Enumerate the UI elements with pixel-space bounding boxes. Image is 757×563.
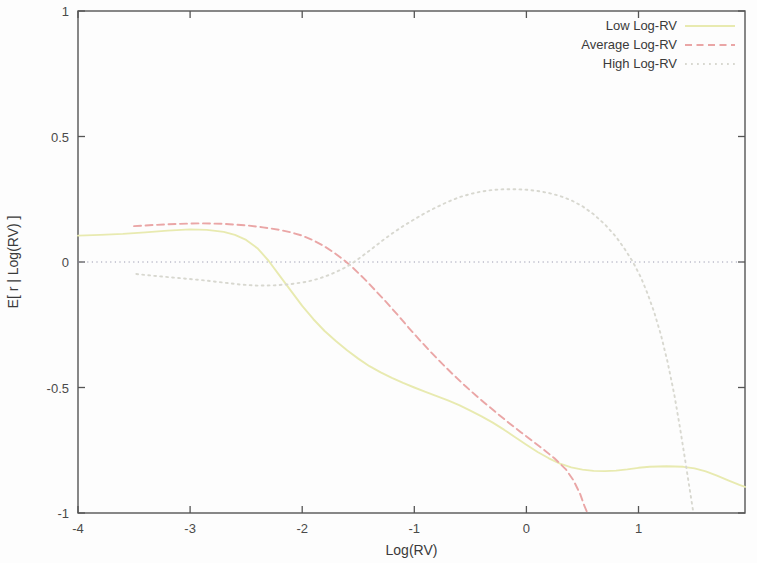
y-tick-label: -1: [57, 506, 69, 521]
x-tick-label: -2: [296, 521, 308, 536]
axis-titles: Log(RV)E[ r | Log(RV) ]: [5, 216, 437, 558]
series-line-2: [136, 189, 693, 513]
y-tick-label: 0: [62, 255, 69, 270]
tick-labels: -4-3-2-10110.50-0.5-1: [47, 4, 643, 536]
x-tick-label: 1: [635, 521, 642, 536]
series-line-0: [78, 229, 745, 487]
x-tick-label: -4: [72, 521, 84, 536]
series-line-1: [134, 223, 587, 513]
legend-label-1: Average Log-RV: [581, 37, 677, 52]
y-axis-title: E[ r | Log(RV) ]: [5, 216, 21, 309]
line-chart: -4-3-2-10110.50-0.5-1 Log(RV)E[ r | Log(…: [0, 0, 757, 563]
y-tick-label: 1: [62, 4, 69, 19]
y-tick-label: -0.5: [47, 381, 69, 396]
legend-label-2: High Log-RV: [603, 56, 678, 71]
data-series-group: [78, 189, 745, 513]
x-tick-label: 0: [523, 521, 530, 536]
x-axis-title: Log(RV): [386, 542, 438, 558]
y-tick-label: 0.5: [51, 130, 69, 145]
chart-figure: -4-3-2-10110.50-0.5-1 Log(RV)E[ r | Log(…: [0, 0, 757, 563]
x-tick-label: -1: [409, 521, 421, 536]
legend-label-0: Low Log-RV: [606, 18, 678, 33]
chart-legend: Low Log-RVAverage Log-RVHigh Log-RV: [581, 18, 735, 71]
x-tick-label: -3: [184, 521, 196, 536]
